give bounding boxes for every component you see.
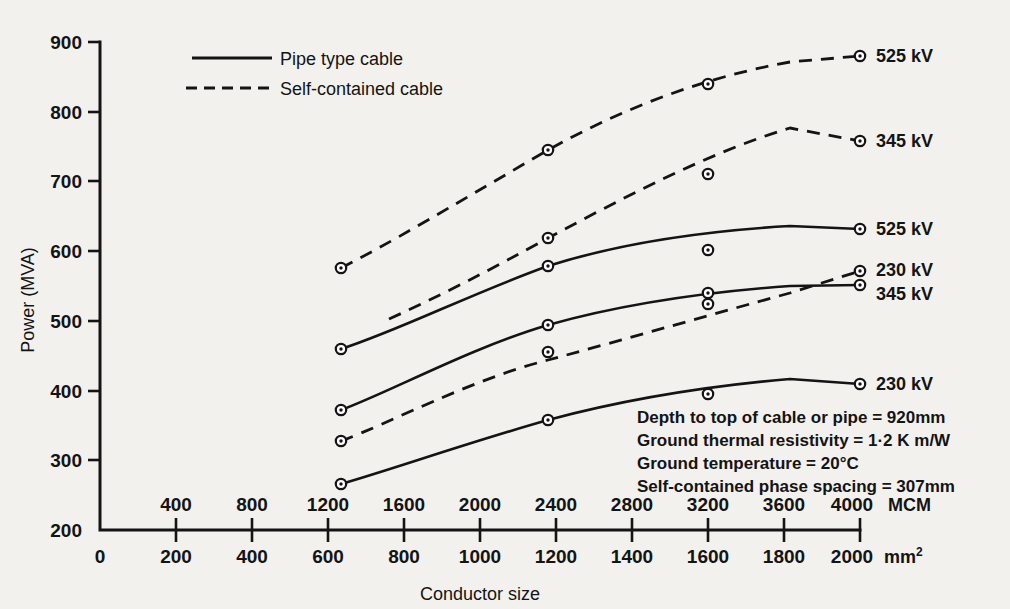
mcm-tick-2000: 2000 — [459, 494, 501, 515]
mm2-tick-2000: 2000 — [831, 546, 873, 567]
mm2-tick-0: 0 — [95, 546, 106, 567]
mm2-tick-600: 600 — [312, 546, 344, 567]
mcm-tick-1600: 1600 — [383, 494, 425, 515]
mm2-tick-400: 400 — [236, 546, 268, 567]
y-tick-700: 700 — [50, 171, 82, 192]
legend-label-self-contained-cable: Self-contained cable — [280, 79, 443, 99]
power-vs-conductor-size-chart: 900 800 700 600 500 400 300 200 Power (M… — [0, 0, 1010, 609]
y-tick-800: 800 — [50, 102, 82, 123]
annotation-line-4: Self-contained phase spacing = 307mm — [637, 477, 955, 496]
mm2-tick-1800: 1800 — [763, 546, 805, 567]
mcm-tick-1200: 1200 — [307, 494, 349, 515]
legend-label-pipe-type-cable: Pipe type cable — [280, 49, 403, 69]
curve-end-label-230kv-self-contained: 230 kV — [876, 260, 933, 280]
x-axis-title: Conductor size — [420, 584, 540, 604]
y-tick-300: 300 — [50, 450, 82, 471]
mcm-tick-2800: 2800 — [611, 494, 653, 515]
curve-end-label-345kv-self-contained: 345 kV — [876, 131, 933, 151]
mcm-tick-400: 400 — [160, 494, 192, 515]
mcm-tick-4000: 4000 — [831, 494, 873, 515]
mm2-tick-1400: 1400 — [611, 546, 653, 567]
mm2-tick-1600: 1600 — [687, 546, 729, 567]
y-tick-500: 500 — [50, 311, 82, 332]
curve-end-label-525kv-pipe-type: 525 kV — [876, 219, 933, 239]
y-tick-900: 900 — [50, 32, 82, 53]
annotation-line-1: Depth to top of cable or pipe = 920mm — [637, 408, 945, 427]
curve-end-label-230kv-pipe-type: 230 kV — [876, 374, 933, 394]
curve-end-label-525kv-self-contained: 525 kV — [876, 46, 933, 66]
mcm-tick-3200: 3200 — [687, 494, 729, 515]
curve-end-label-345kv-pipe-type: 345 kV — [876, 284, 933, 304]
y-axis-title: Power (MVA) — [18, 247, 38, 353]
y-tick-400: 400 — [50, 381, 82, 402]
y-tick-600: 600 — [50, 241, 82, 262]
annotation-line-2: Ground thermal resistivity = 1·2 K m/W — [637, 431, 951, 450]
mm2-tick-1000: 1000 — [459, 546, 501, 567]
mm2-tick-200: 200 — [160, 546, 192, 567]
mm2-tick-800: 800 — [388, 546, 420, 567]
chart-background — [0, 0, 1010, 609]
mcm-tick-800: 800 — [236, 494, 268, 515]
y-tick-200: 200 — [50, 520, 82, 541]
mcm-unit-label: MCM — [888, 495, 931, 515]
mcm-tick-2400: 2400 — [535, 494, 577, 515]
chart-figure: 900 800 700 600 500 400 300 200 Power (M… — [0, 0, 1010, 609]
mcm-tick-3600: 3600 — [763, 494, 805, 515]
annotation-line-3: Ground temperature = 20°C — [637, 454, 859, 473]
mm2-tick-1200: 1200 — [535, 546, 577, 567]
